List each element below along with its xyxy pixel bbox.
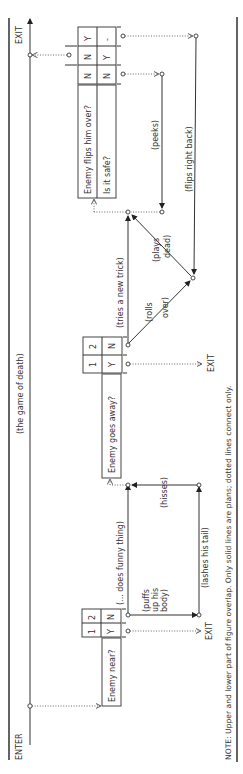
action-rolls-over-2: over): [161, 297, 170, 318]
t3-c2-v2: Y: [103, 55, 112, 61]
action-plays-dead-2: dead): [163, 235, 172, 258]
t3-c1-v2: N: [103, 73, 112, 79]
action-puffs-3: body): [160, 589, 169, 612]
footnote: NOTE: Upper and lower part of figure ove…: [224, 386, 233, 760]
action-hisses: (hisses): [160, 477, 169, 508]
t1-yes-node: [126, 629, 130, 633]
action-lashes: (lashes his tail): [201, 527, 210, 588]
peeks-node: [160, 210, 164, 214]
t2-v2: N: [108, 343, 117, 349]
t3-c1-v1: N: [84, 73, 93, 79]
trick-node: [126, 210, 130, 214]
t2-no-node: [126, 343, 130, 347]
action-tries-new-trick: (tries a new trick): [116, 257, 125, 328]
plays-dead-line: [132, 215, 191, 276]
t2-yes-node: [126, 362, 130, 366]
exit-main-label: EXIT: [15, 26, 24, 44]
enter-node: [28, 704, 32, 708]
t3-c2-node: [67, 53, 71, 57]
t1-h2: 2: [88, 615, 97, 620]
exit-label-1: EXIT: [205, 622, 214, 640]
funny-node: [126, 483, 130, 487]
flips-start-node: [194, 34, 198, 38]
question-enemy-near: Enemy near?: [108, 649, 117, 702]
puffs-node: [197, 613, 201, 617]
table-enemy-near: 1 2 Y N Enemy near?: [82, 609, 126, 706]
t2-h2: 2: [89, 344, 98, 349]
exit-label-2: EXIT: [207, 354, 216, 372]
t3-c1-node: [121, 72, 125, 76]
table-flips-him-over: N N N Y Y - Enemy flips him over? Is it …: [65, 27, 121, 198]
action-plays-dead-1: (plays: [152, 238, 161, 262]
enter-label: ENTER: [15, 733, 24, 760]
t1-h1: 1: [88, 629, 97, 634]
rolls-over-line: [129, 281, 190, 343]
action-rolls-over-1: (rolls: [145, 302, 154, 322]
action-puffs-2: up his: [151, 588, 160, 612]
action-puffs-1: (puffs: [142, 589, 151, 612]
main-exit-node: [28, 53, 32, 57]
question-flips-him-over: Enemy flips him over?: [84, 105, 93, 194]
question-is-it-safe: Is it safe?: [103, 156, 112, 194]
t2-h1: 1: [89, 362, 98, 367]
t3-c3-v2: -: [103, 38, 112, 41]
decision-flow-diagram: ENTER EXIT (the game of death) 1 2 Y N E…: [0, 0, 243, 774]
rolls-over-node: [191, 276, 195, 280]
action-peeks: (peeks): [151, 120, 160, 150]
t3-c3-v1: Y: [84, 36, 93, 42]
table-enemy-goes-away: 1 2 Y N Enemy goes away?: [83, 337, 127, 478]
peeks-start-node: [160, 72, 164, 76]
diagram-title: (the game of death): [16, 353, 25, 434]
t2-v1: Y: [108, 362, 117, 368]
lashes-node: [197, 483, 201, 487]
action-does-funny-thing: (... does funny thing): [116, 521, 125, 605]
t3-c3-node: [121, 34, 125, 38]
question-enemy-goes-away: Enemy goes away?: [108, 396, 117, 473]
flips-right-back-line: [194, 38, 196, 274]
t1-v2: N: [107, 614, 116, 620]
t1-no-node: [126, 613, 130, 617]
t1-v1: Y: [107, 629, 116, 635]
t3-c2-v1: N: [84, 54, 93, 60]
action-flips-right-back: (flips right back): [185, 126, 194, 192]
